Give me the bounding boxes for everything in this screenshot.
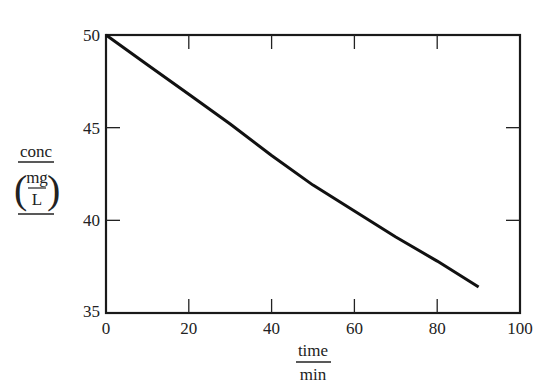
y-tick-label: 35: [83, 302, 100, 321]
x-axis-label-denominator: min: [300, 365, 327, 384]
x-tick-label: 100: [507, 319, 533, 338]
line-chart: 02040608010035404550 time min conc ( mg …: [0, 0, 545, 392]
x-tick-label: 0: [102, 319, 111, 338]
axis-ticks: [106, 35, 520, 313]
plot-frame: [106, 35, 520, 313]
x-tick-label: 80: [429, 319, 446, 338]
y-tick-label: 40: [83, 211, 100, 230]
y-axis-label-right-paren: ): [47, 167, 60, 212]
y-axis-label-unit-denominator: L: [32, 190, 42, 209]
x-tick-label: 40: [263, 319, 280, 338]
data-series-conc: [106, 35, 479, 287]
x-tick-label: 20: [180, 319, 197, 338]
x-tick-label: 60: [346, 319, 363, 338]
y-tick-label: 50: [83, 26, 100, 45]
y-axis-label-unit-numerator: mg: [26, 168, 48, 187]
y-tick-label: 45: [83, 119, 100, 138]
x-axis-label-numerator: time: [298, 341, 328, 360]
y-axis-label-numerator: conc: [20, 142, 53, 161]
